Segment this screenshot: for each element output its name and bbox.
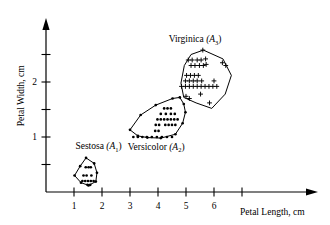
- versicolor-point: [170, 118, 173, 121]
- versicolor-point: [163, 107, 166, 110]
- virginica-point: [196, 73, 201, 78]
- versicolor-point: [159, 118, 162, 121]
- virginica-label: Virginica (A3): [169, 34, 222, 45]
- setosa-point: [89, 180, 92, 183]
- setosa-point: [82, 174, 85, 177]
- virginica-point: [199, 79, 204, 84]
- versicolor-hull-vertex-point: [129, 129, 132, 132]
- virginica-point: [214, 84, 219, 89]
- y-axis-arrowhead: [42, 18, 49, 30]
- versicolor-hull-vertex-point: [159, 137, 162, 140]
- setosa-hull-vertex-point: [93, 162, 96, 165]
- versicolor-point: [141, 136, 144, 139]
- versicolor-point: [164, 124, 167, 127]
- versicolor-point: [157, 130, 160, 133]
- setosa-point: [89, 166, 92, 169]
- versicolor-point: [156, 118, 159, 121]
- cluster-code-open: (A: [169, 142, 178, 153]
- versicolor-point: [132, 136, 135, 139]
- setosa-hull-vertex-point: [96, 171, 99, 174]
- plot-canvas: 12345612Petal Length, cmPetal Width, cmS…: [0, 0, 330, 225]
- setosa-label: Sestosa (A1): [75, 141, 121, 152]
- x-tick-label: 2: [100, 201, 105, 211]
- x-tick-label: 3: [128, 201, 133, 211]
- versicolor-point: [166, 118, 169, 121]
- virginica-point: [198, 92, 203, 97]
- versicolor-point: [171, 124, 174, 127]
- setosa-point: [92, 180, 95, 183]
- y-tick-label: 2: [32, 77, 37, 87]
- cluster-code-close: ): [118, 141, 121, 152]
- virginica-point: [203, 57, 208, 62]
- cluster-name-text: Sestosa: [75, 141, 106, 151]
- virginica-point: [195, 79, 200, 84]
- setosa-hull-vertex-point: [85, 157, 88, 160]
- setosa-hull-vertex-point: [80, 181, 83, 184]
- cluster-name-text: Virginica: [169, 34, 207, 44]
- versicolor-point: [166, 136, 169, 139]
- setosa-point: [84, 180, 87, 183]
- setosa-point: [87, 180, 90, 183]
- versicolor-hull-vertex-point: [154, 104, 157, 107]
- virginica-point: [212, 79, 217, 84]
- cluster-code-close: ): [181, 142, 184, 153]
- versicolor-point: [173, 113, 176, 116]
- virginica-point: [204, 62, 209, 67]
- versicolor-hull-vertex-point: [184, 111, 187, 114]
- virginica-point: [201, 63, 206, 68]
- setosa-hull-vertex-point: [87, 184, 90, 187]
- versicolor-hull-vertex-point: [174, 133, 177, 136]
- versicolor-point: [167, 124, 170, 127]
- cluster-code-open: (A: [206, 34, 215, 45]
- setosa-point: [90, 174, 93, 177]
- versicolor-hull-vertex-point: [139, 114, 142, 117]
- versicolor-hull-vertex-point: [171, 97, 174, 100]
- versicolor-point: [163, 118, 166, 121]
- virginica-point: [207, 101, 212, 106]
- versicolor-point: [171, 136, 174, 139]
- x-axis-arrowhead: [306, 188, 318, 195]
- virginica-point: [190, 58, 195, 63]
- virginica-point: [200, 48, 205, 53]
- x-tick-label: 6: [212, 201, 217, 211]
- x-axis-title: Petal Length, cm: [240, 207, 305, 217]
- cluster-name-text: Versicolor: [128, 142, 169, 152]
- versicolor-point: [164, 113, 167, 116]
- versicolor-hull-vertex-point: [182, 103, 185, 106]
- versicolor-point: [154, 124, 157, 127]
- versicolor-hull-vertex-point: [146, 136, 149, 139]
- virginica-point: [199, 58, 204, 63]
- versicolor-point: [150, 136, 153, 139]
- iris-scatter-figure: 12345612Petal Length, cmPetal Width, cmS…: [0, 0, 330, 225]
- setosa-hull-vertex-point: [94, 180, 97, 183]
- versicolor-point: [156, 136, 159, 139]
- versicolor-point: [173, 118, 176, 121]
- versicolor-point: [159, 113, 162, 116]
- virginica-point: [193, 63, 198, 68]
- versicolor-point: [170, 113, 173, 116]
- versicolor-hull-vertex-point: [178, 96, 181, 99]
- x-tick-label: 1: [72, 201, 77, 211]
- x-tick-label: 5: [184, 201, 189, 211]
- versicolor-point: [154, 130, 157, 133]
- cluster-code-open: (A: [106, 141, 115, 152]
- versicolor-point: [174, 124, 177, 127]
- y-tick-label: 1: [32, 132, 37, 142]
- versicolor-point: [158, 124, 161, 127]
- cluster-code-close: ): [218, 34, 221, 45]
- setosa-point: [84, 166, 87, 169]
- setosa-hull-vertex-point: [79, 165, 82, 168]
- y-axis-title: Petal Width, cm: [16, 65, 26, 127]
- setosa-hull-vertex-point: [73, 174, 76, 177]
- versicolor-point: [170, 107, 173, 110]
- setosa-point: [85, 174, 88, 177]
- versicolor-point: [176, 118, 179, 121]
- versicolor-hull-vertex-point: [136, 135, 139, 138]
- versicolor-label: Versicolor (A2): [128, 142, 185, 153]
- versicolor-point: [166, 107, 169, 110]
- versicolor-hull-vertex-point: [181, 122, 184, 125]
- x-tick-label: 4: [156, 201, 161, 211]
